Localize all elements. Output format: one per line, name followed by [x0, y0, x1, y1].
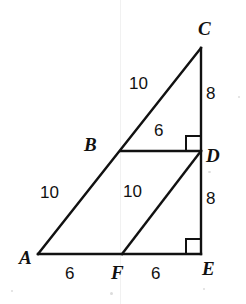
measure-label-FD: 10	[123, 183, 142, 200]
vertex-label-C: C	[198, 19, 211, 38]
vertex-label-A: A	[19, 248, 32, 267]
measure-label-CD: 8	[206, 85, 215, 102]
measure-label-DE: 8	[206, 190, 215, 207]
right-angle-mark-D	[186, 136, 201, 151]
vertex-label-E: E	[202, 259, 215, 278]
geometry-diagram-page: C B D A F E 10 8 6 10 10 8 6 6	[0, 0, 246, 304]
right-angle-mark-E	[186, 239, 201, 254]
vertex-label-F: F	[111, 263, 124, 282]
vertex-label-D: D	[206, 146, 220, 165]
measure-label-AF: 6	[65, 265, 74, 282]
measure-label-BD: 6	[154, 122, 163, 139]
vertex-label-B: B	[84, 135, 97, 154]
measure-label-BC: 10	[129, 75, 148, 92]
measure-label-AB: 10	[40, 184, 59, 201]
measure-label-FE: 6	[151, 265, 160, 282]
